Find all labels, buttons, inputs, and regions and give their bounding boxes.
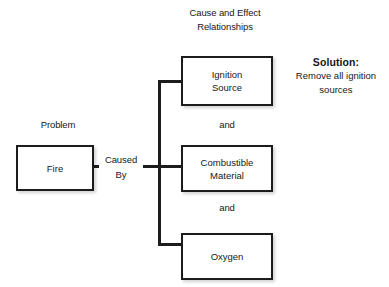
node-box-combustible-material-line-1: Combustible (201, 156, 254, 169)
node-box-ignition-source-line-1: Ignition (212, 68, 243, 81)
node-box-combustible-material: Combustible Material (181, 145, 273, 192)
and-label-1: and (181, 118, 273, 131)
connector-trunk-to-oxygen (158, 243, 183, 246)
cause-and-effect-diagram: Cause and Effect Relationships Solution:… (0, 0, 389, 287)
node-box-ignition-source-text: Ignition Source (209, 68, 246, 94)
node-box-fire-text: Fire (44, 162, 66, 175)
node-box-fire-line-1: Fire (47, 162, 63, 175)
node-box-combustible-material-text: Combustible Material (198, 156, 257, 182)
solution-line-2: sources (283, 83, 389, 97)
solution-title: Solution: (283, 55, 389, 69)
node-box-oxygen-line-1: Oxygen (211, 250, 244, 263)
node-box-combustible-material-line-2: Material (201, 169, 254, 182)
node-box-oxygen-text: Oxygen (208, 250, 247, 263)
header-title-line-2: Relationships (168, 20, 282, 34)
solution-block: Solution: Remove all ignition sources (283, 55, 389, 97)
connector-vertical-trunk (158, 80, 161, 246)
caused-by-label: Caused By (99, 152, 143, 182)
caused-by-line-2: By (99, 167, 143, 182)
caused-by-line-1: Caused (99, 152, 143, 167)
solution-line-1: Remove all ignition (283, 69, 389, 83)
node-box-ignition-source: Ignition Source (181, 56, 273, 106)
node-box-fire: Fire (16, 145, 94, 191)
connector-trunk-to-ignition-source (158, 80, 183, 83)
problem-label: Problem (30, 118, 86, 131)
node-box-oxygen: Oxygen (181, 233, 273, 280)
header-title-line-1: Cause and Effect (168, 6, 282, 20)
diagram-header-title: Cause and Effect Relationships (168, 6, 282, 34)
node-box-ignition-source-line-2: Source (212, 81, 243, 94)
and-label-2: and (181, 201, 273, 214)
